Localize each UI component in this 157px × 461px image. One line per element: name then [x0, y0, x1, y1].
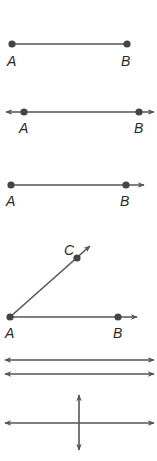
point-a	[8, 40, 15, 47]
geometry-figures: A B A B A B A B C	[0, 0, 157, 461]
point-b	[135, 108, 142, 115]
point-b	[114, 313, 121, 320]
label-a: A	[4, 325, 14, 341]
point-b	[123, 40, 130, 47]
label-b: B	[134, 120, 143, 136]
label-a: A	[6, 53, 16, 69]
label-b: B	[120, 193, 129, 209]
label-c: C	[64, 242, 75, 258]
parallel-lines	[5, 360, 154, 374]
point-a	[20, 108, 27, 115]
point-c	[73, 254, 80, 261]
point-a	[7, 181, 14, 188]
label-b: B	[113, 325, 122, 341]
ray-ab: A B	[5, 181, 144, 209]
point-b	[122, 181, 129, 188]
label-a: A	[18, 120, 28, 136]
angle-cab: A B C	[4, 242, 137, 341]
line-ab: A B	[6, 108, 154, 136]
point-a	[6, 313, 13, 320]
perpendicular-lines	[5, 395, 154, 450]
label-a: A	[5, 193, 15, 209]
segment-ab: A B	[6, 40, 131, 69]
label-b: B	[121, 53, 130, 69]
